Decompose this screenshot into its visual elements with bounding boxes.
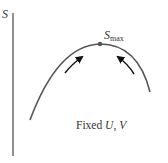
condition-prefix: Fixed <box>76 119 105 131</box>
entropy-curve <box>30 44 150 120</box>
max-label-subscript: max <box>110 34 124 43</box>
maximum-point <box>98 42 103 47</box>
max-label: Smax <box>104 28 124 43</box>
condition-label: Fixed U, V <box>76 119 126 131</box>
axis-label-s: S <box>2 7 8 22</box>
entropy-diagram <box>0 0 168 163</box>
left-arrow-icon <box>65 57 82 73</box>
condition-var-v: V <box>119 119 126 131</box>
right-arrow-icon <box>118 57 134 74</box>
